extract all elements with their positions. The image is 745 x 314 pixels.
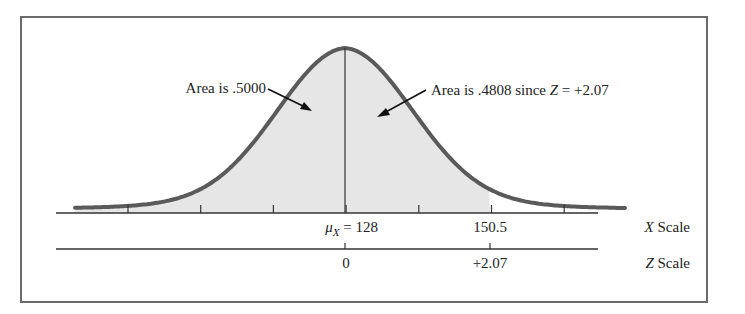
x-scale-label: X Scale [644,219,691,235]
normal-distribution-figure: μX = 128 150.5 X Scale 0 +2.07 Z Scale A… [0,0,745,314]
x-tick-label-150-5: 150.5 [473,219,507,235]
annotation-left: Area is .5000 [186,80,266,96]
z-tick-label-207: +2.07 [473,255,508,271]
z-scale-label: Z Scale [645,255,690,271]
annotation-right: Area is .4808 since Z = +2.07 [431,82,609,98]
z-tick-label-0: 0 [342,255,350,271]
